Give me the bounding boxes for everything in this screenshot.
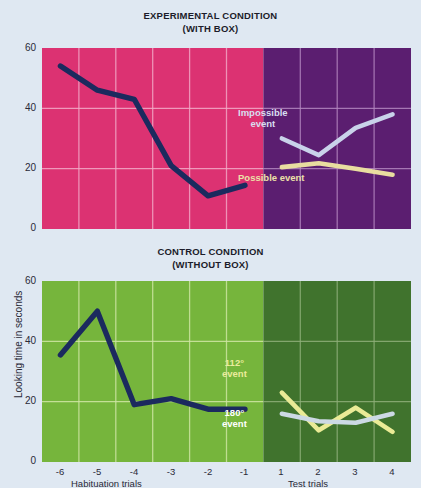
experimental-panel-title: EXPERIMENTAL CONDITION (WITH BOX) [0, 10, 421, 35]
control-xtick-9: 4 [381, 466, 403, 477]
label-possible-line1: Possible event [238, 172, 305, 183]
label-impossible-event: Impossible event [238, 107, 288, 129]
control-xtick-7: 2 [307, 466, 329, 477]
experimental-title-main: EXPERIMENTAL CONDITION [0, 10, 421, 23]
control-xtick-2: -4 [123, 466, 145, 477]
control-xtick-6: 1 [270, 466, 292, 477]
control-xtick-5: -1 [233, 466, 255, 477]
control-ytick-40: 40 [12, 335, 36, 346]
control-ytick-60: 60 [12, 275, 36, 286]
label-180-event: 180° event [222, 407, 247, 429]
control-panel-title: CONTROL CONDITION (WITHOUT BOX) [0, 246, 421, 271]
experimental-ytick-0: 0 [12, 222, 36, 233]
control-title-main: CONTROL CONDITION [0, 246, 421, 259]
label-112-line1: 112° [222, 357, 247, 368]
control-title-sub: (WITHOUT BOX) [0, 259, 421, 272]
x-axis-label-test: Test trials [288, 478, 328, 488]
control-ytick-0: 0 [12, 455, 36, 466]
experimental-ytick-20: 20 [12, 162, 36, 173]
control-ytick-20: 20 [12, 395, 36, 406]
control-xtick-0: -6 [49, 466, 71, 477]
panel-control: CONTROL CONDITION (WITHOUT BOX) 60 40 20… [0, 240, 421, 488]
label-180-line1: 180° [222, 407, 247, 418]
control-xtick-8: 3 [344, 466, 366, 477]
panel-experimental: EXPERIMENTAL CONDITION (WITH BOX) 60 40 … [0, 0, 421, 240]
label-180-line2: event [222, 418, 247, 429]
experimental-plot [42, 48, 411, 229]
label-impossible-line1: Impossible [238, 107, 288, 118]
control-xtick-3: -3 [160, 466, 182, 477]
label-112-line2: event [222, 368, 247, 379]
label-impossible-line2: event [238, 118, 288, 129]
experimental-ytick-60: 60 [12, 42, 36, 53]
experimental-title-sub: (WITH BOX) [0, 23, 421, 36]
label-possible-event: Possible event [238, 172, 305, 183]
figure-root: Looking time in seconds EXPERIMENTAL CON… [0, 0, 421, 488]
control-xtick-4: -2 [197, 466, 219, 477]
x-axis-label-habituation: Habituation trials [71, 478, 142, 488]
label-112-event: 112° event [222, 357, 247, 379]
experimental-ytick-40: 40 [12, 102, 36, 113]
control-xtick-1: -5 [86, 466, 108, 477]
